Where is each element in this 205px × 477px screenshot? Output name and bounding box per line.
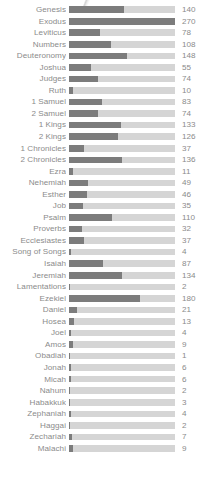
bar-label: Numbers [0, 39, 66, 51]
bar-fill [69, 387, 70, 394]
bar-fill [69, 122, 121, 129]
chart-row: Habakkuk3 [0, 397, 205, 409]
chart-row: Joel4 [0, 327, 205, 339]
bar-fill [69, 445, 73, 452]
bar-track [69, 387, 175, 394]
chart-row: Numbers108 [0, 39, 205, 51]
bar-fill [69, 411, 71, 418]
bar-label: 2 Chronicles [0, 154, 66, 166]
bar-track [69, 284, 175, 291]
chart-row: Ruth10 [0, 85, 205, 97]
bar-value: 3 [182, 397, 205, 409]
bar-fill [69, 330, 71, 337]
chart-row: Ezra11 [0, 166, 205, 178]
bar-track [69, 214, 175, 221]
bar-value: 46 [182, 189, 205, 201]
bar-track [69, 445, 175, 452]
bar-label: Ecclesiastes [0, 235, 66, 247]
chart-row: Genesis140 [0, 4, 205, 16]
chart-row: Judges74 [0, 73, 205, 85]
bar-label: Exodus [0, 16, 66, 28]
bar-fill [69, 295, 140, 302]
bar-track [69, 226, 175, 233]
bar-label: 2 Kings [0, 131, 66, 143]
chart-row: 2 Samuel74 [0, 108, 205, 120]
chart-row: Daniel21 [0, 304, 205, 316]
bar-label: Job [0, 200, 66, 212]
bar-track [69, 272, 175, 279]
chart-row: Obadiah1 [0, 350, 205, 362]
bar-label: Genesis [0, 4, 66, 16]
bar-track [69, 237, 175, 244]
bar-label: Obadiah [0, 350, 66, 362]
bar-fill [69, 376, 71, 383]
chart-row: Psalm110 [0, 212, 205, 224]
bar-fill [69, 434, 72, 441]
bar-value: 21 [182, 304, 205, 316]
bar-label: Ezekiel [0, 293, 66, 305]
bar-label: Joel [0, 327, 66, 339]
chart-row: Joshua55 [0, 62, 205, 74]
bar-value: 10 [182, 85, 205, 97]
bar-fill [69, 157, 122, 164]
bar-track [69, 110, 175, 117]
bar-track [69, 87, 175, 94]
bar-track [69, 364, 175, 371]
bar-fill [69, 53, 127, 60]
bar-fill [69, 318, 74, 325]
bar-value: 13 [182, 316, 205, 328]
bar-fill [69, 87, 73, 94]
bar-value: 148 [182, 50, 205, 62]
bar-value: 35 [182, 200, 205, 212]
bar-fill [69, 214, 112, 221]
chart-row: 1 Samuel83 [0, 96, 205, 108]
bar-track [69, 145, 175, 152]
bar-label: Hosea [0, 316, 66, 328]
bar-label: Joshua [0, 62, 66, 74]
bar-value: 9 [182, 443, 205, 455]
chart-row: Jeremiah134 [0, 270, 205, 282]
bar-value: 133 [182, 119, 205, 131]
chart-row: Esther46 [0, 189, 205, 201]
bar-fill [69, 353, 70, 360]
bar-fill [69, 399, 70, 406]
chart-row: Proverbs32 [0, 223, 205, 235]
chart-row: Zephaniah4 [0, 408, 205, 420]
chart-row: Amos9 [0, 339, 205, 351]
bar-fill [69, 18, 175, 25]
chart-row: Leviticus78 [0, 27, 205, 39]
bar-track [69, 157, 175, 164]
bar-label: Jonah [0, 362, 66, 374]
chart-row: 1 Chronicles37 [0, 143, 205, 155]
bar-track [69, 376, 175, 383]
bar-fill [69, 249, 71, 256]
bar-label: Esther [0, 189, 66, 201]
bar-label: Judges [0, 73, 66, 85]
bar-track [69, 76, 175, 83]
bar-fill [69, 272, 122, 279]
bar-fill [69, 191, 87, 198]
chart-row: Nehemiah49 [0, 177, 205, 189]
bar-fill [69, 203, 83, 210]
bar-fill [69, 237, 84, 244]
bar-value: 140 [182, 4, 205, 16]
bar-value: 136 [182, 154, 205, 166]
bar-label: Micah [0, 374, 66, 386]
chart-row: 2 Kings126 [0, 131, 205, 143]
bar-track [69, 318, 175, 325]
bar-value: 4 [182, 246, 205, 258]
bar-track [69, 18, 175, 25]
chart-row: Haggai2 [0, 420, 205, 432]
horizontal-bar-chart: Genesis140Exodus270Leviticus78Numbers108… [0, 0, 205, 477]
chart-row: Deuteronomy148 [0, 50, 205, 62]
bar-value: 74 [182, 73, 205, 85]
chart-row: Micah6 [0, 374, 205, 386]
bar-track [69, 411, 175, 418]
chart-row: Zechariah7 [0, 431, 205, 443]
bar-label: Nahum [0, 385, 66, 397]
bar-label: 2 Samuel [0, 108, 66, 120]
bar-value: 2 [182, 420, 205, 432]
bar-fill [69, 284, 70, 291]
bar-label: Jeremiah [0, 270, 66, 282]
bar-value: 11 [182, 166, 205, 178]
